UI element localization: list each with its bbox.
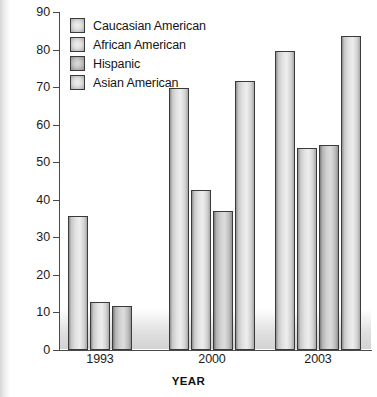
x-tick-label-2003: 2003 (278, 352, 358, 366)
y-tick-mark (53, 312, 59, 313)
y-tick-mark (53, 162, 59, 163)
chart-legend: Caucasian AmericanAfrican AmericanHispan… (70, 16, 206, 92)
bar-1993-african-american (90, 302, 110, 350)
y-tick-mark (53, 275, 59, 276)
bar-2003-hispanic (319, 145, 339, 350)
scan-edge-artifact (0, 0, 10, 397)
y-tick-label: 20 (36, 268, 50, 282)
y-tick-label: 10 (36, 305, 50, 319)
bar-2000-african-american (191, 190, 211, 350)
y-tick-mark (53, 200, 59, 201)
x-tick-label-2000: 2000 (172, 352, 252, 366)
bar-1993-caucasian-american (68, 216, 88, 350)
bar-1993-hispanic (112, 306, 132, 350)
bar-2000-asian-american (235, 81, 255, 350)
legend-swatch-caucasian-american (70, 18, 85, 33)
legend-item-hispanic: Hispanic (70, 54, 206, 73)
legend-label: African American (93, 38, 186, 52)
bar-chart-figure: 0102030405060708090 199320002003 PERCENT… (0, 0, 377, 397)
y-tick-mark (53, 125, 59, 126)
y-tick-mark (53, 237, 59, 238)
y-tick-label: 70 (36, 80, 50, 94)
legend-item-asian-american: Asian American (70, 73, 206, 92)
y-tick-mark (53, 350, 59, 351)
y-tick-mark (53, 12, 59, 13)
bar-2003-african-american (297, 148, 317, 350)
y-tick-mark (53, 87, 59, 88)
y-tick-label: 50 (36, 155, 50, 169)
x-tick-label-1993: 1993 (60, 352, 140, 366)
y-axis-line (59, 12, 60, 351)
bar-2000-caucasian-american (169, 88, 189, 350)
legend-swatch-asian-american (70, 75, 85, 90)
legend-label: Asian American (93, 76, 178, 90)
y-tick-mark (53, 50, 59, 51)
legend-label: Hispanic (93, 57, 140, 71)
legend-item-african-american: African American (70, 35, 206, 54)
y-tick-label: 30 (36, 230, 50, 244)
bar-2003-caucasian-american (275, 51, 295, 350)
bar-2000-hispanic (213, 211, 233, 350)
y-tick-label: 0 (43, 343, 50, 357)
x-axis-line (59, 350, 372, 351)
legend-swatch-african-american (70, 37, 85, 52)
bar-2003-asian-american (341, 36, 361, 350)
legend-label: Caucasian American (93, 19, 206, 33)
y-tick-label: 90 (36, 5, 50, 19)
bar-group-2003 (275, 12, 361, 350)
x-axis-title: YEAR (0, 375, 377, 387)
legend-swatch-hispanic (70, 56, 85, 71)
y-tick-label: 60 (36, 118, 50, 132)
legend-item-caucasian-american: Caucasian American (70, 16, 206, 35)
y-tick-label: 80 (36, 43, 50, 57)
y-tick-label: 40 (36, 193, 50, 207)
